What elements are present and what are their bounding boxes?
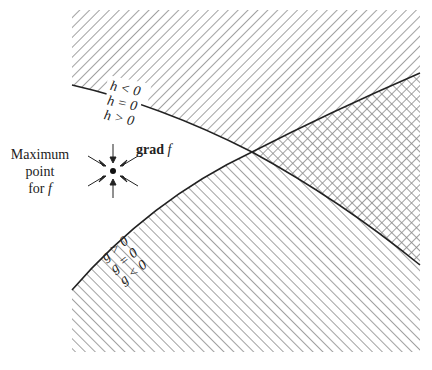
maximum-point-dot <box>110 168 116 174</box>
maximum-point-label: Maximum point for f <box>2 146 78 197</box>
maximum-label-line2: point <box>2 163 78 180</box>
maximum-label-line3: for f <box>2 180 78 197</box>
grad-f-label: grad f <box>136 142 171 158</box>
for-text: for <box>28 181 48 196</box>
grad-text: grad <box>136 142 164 157</box>
grad-f-variable: f <box>164 142 171 157</box>
maximum-point-marker <box>88 144 138 198</box>
f-variable: f <box>48 181 52 196</box>
maximum-label-line1: Maximum <box>2 146 78 163</box>
